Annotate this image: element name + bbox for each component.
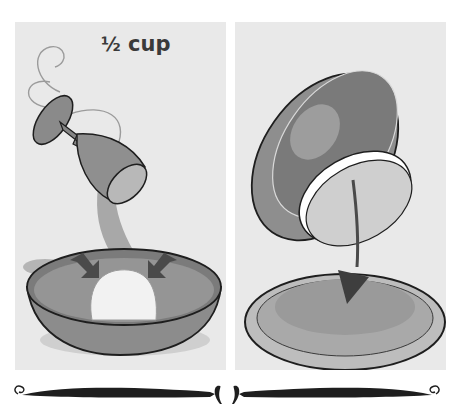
- measurement-caption: ½ cup: [101, 32, 170, 56]
- ornamental-divider: [10, 380, 444, 406]
- heart-ornament: [215, 386, 240, 404]
- pour-illustration: [15, 22, 226, 370]
- transfer-illustration: [235, 22, 446, 370]
- panel-transfer-step: [235, 22, 446, 370]
- panel-pour-step: ½ cup: [15, 22, 226, 370]
- caption-fraction: ½: [101, 33, 121, 55]
- caption-unit: cup: [128, 32, 170, 56]
